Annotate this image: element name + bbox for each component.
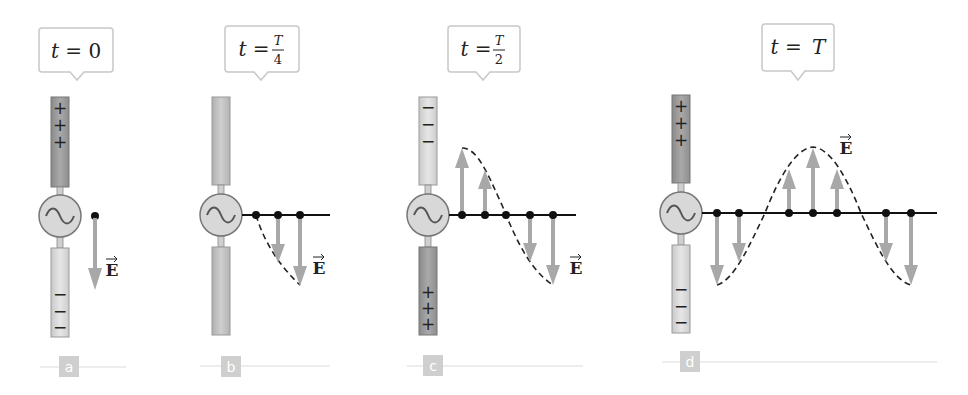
time-label-a: t = 0 [51, 39, 101, 63]
e-field-label: E [106, 256, 119, 280]
svg-text:+: + [53, 132, 67, 152]
panel-b: t = T 4 E b [200, 26, 330, 377]
svg-text:d: d [686, 354, 695, 370]
minus-charges: − − − [674, 279, 688, 332]
e-field-label: E [313, 254, 326, 278]
svg-text:2: 2 [495, 52, 503, 67]
plus-charges: + + + [421, 282, 435, 334]
plus-charges: + + + [674, 96, 688, 150]
svg-text:t =: t = [460, 37, 491, 61]
ac-source-icon [200, 194, 242, 236]
svg-text:a: a [65, 359, 74, 375]
svg-text:E: E [313, 258, 326, 278]
ac-source-icon [39, 195, 81, 237]
svg-text:E: E [570, 258, 583, 278]
svg-text:T: T [495, 33, 505, 48]
dipole-antenna-figure: t = 0 + + + − − − E [0, 0, 968, 395]
svg-text:−: − [674, 312, 688, 332]
svg-text:4: 4 [274, 52, 282, 67]
minus-charges: − − − [53, 284, 67, 337]
svg-text:T: T [274, 33, 284, 48]
field-arrow-down [88, 218, 102, 290]
svg-text:−: − [53, 317, 67, 337]
svg-text:+: + [674, 130, 688, 150]
field-points [252, 211, 304, 219]
panel-a: t = 0 + + + − − − E [39, 28, 126, 377]
time-callout-b: t = T 4 [225, 26, 299, 80]
minus-charges: − − − [421, 97, 435, 151]
field-arrows [271, 217, 307, 286]
time-callout-a: t = 0 [39, 28, 113, 80]
ac-source-icon [407, 194, 449, 236]
ac-source-icon [660, 192, 702, 234]
svg-text:t =: t = [238, 37, 269, 61]
svg-text:−: − [421, 131, 435, 151]
svg-text:c: c [429, 358, 437, 374]
panel-d: t = T + + + − − − [660, 24, 937, 372]
panel-c: t = T 2 − − − + + + [407, 26, 583, 376]
svg-text:b: b [227, 359, 236, 375]
time-label-d: t = T [771, 35, 828, 59]
time-callout-c: t = T 2 [448, 26, 520, 80]
e-field-label: E [570, 254, 583, 278]
plus-charges: + + + [53, 98, 67, 152]
time-callout-d: t = T [762, 24, 834, 80]
upper-rod-neutral [212, 97, 230, 185]
svg-text:E: E [840, 138, 853, 158]
svg-text:E: E [106, 260, 119, 280]
e-field-label: E [840, 134, 853, 158]
lower-rod-neutral [212, 247, 230, 335]
svg-text:+: + [421, 314, 435, 334]
